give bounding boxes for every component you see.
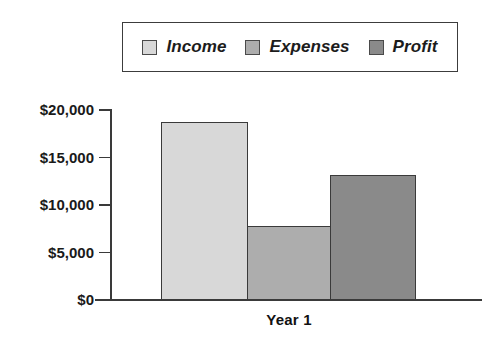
y-axis-tick-label-wrap: $0 [0, 291, 94, 309]
y-axis-tick [99, 299, 110, 301]
y-axis-tick-label: $15,000 [40, 149, 94, 166]
y-axis-tick-label: $20,000 [40, 101, 94, 118]
bar-expenses[interactable] [247, 226, 331, 300]
plot-area: $0$5,000$10,000$15,000$20,000 Year 1 [0, 0, 495, 354]
x-axis-category-label: Year 1 [161, 311, 417, 328]
y-axis-line [110, 109, 112, 301]
y-axis-tick-label: $5,000 [48, 244, 94, 261]
y-axis-tick [99, 204, 110, 206]
bar-chart: Income Expenses Profit $0$5,000$10,000$1… [0, 0, 495, 354]
y-axis-tick-label-wrap: $15,000 [0, 149, 94, 167]
bar-profit[interactable] [330, 175, 416, 300]
y-axis-tick [99, 109, 110, 111]
bar-income[interactable] [161, 122, 248, 300]
y-axis-tick-label: $0 [77, 291, 94, 308]
y-axis-tick-label: $10,000 [40, 196, 94, 213]
y-axis-tick [99, 252, 110, 254]
y-axis-tick-label-wrap: $5,000 [0, 244, 94, 262]
y-axis-tick [99, 157, 110, 159]
y-axis-tick-label-wrap: $10,000 [0, 196, 94, 214]
y-axis-tick-label-wrap: $20,000 [0, 101, 94, 119]
